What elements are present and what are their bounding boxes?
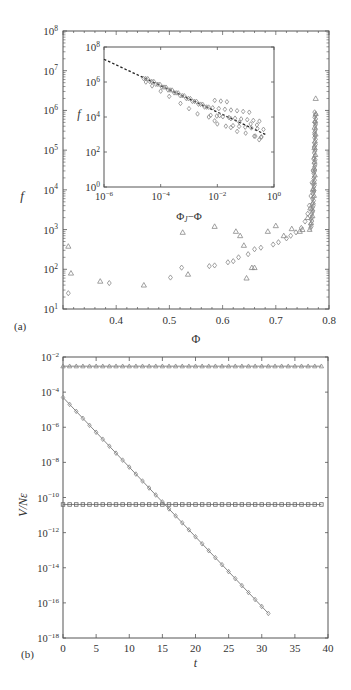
panel-a-label: (a) [14,320,27,333]
triangle-point [313,96,318,101]
diamond-point [259,245,263,250]
y-tick-label: 10−18 [37,632,59,644]
y-tick-label: 102 [43,262,58,275]
y-tick-label: 107 [43,63,58,76]
inset-x-axis-label: ΦJ−Φ [176,210,202,224]
y-tick-label: 10−8 [41,456,60,468]
y-tick-label: 108 [43,24,58,37]
figure-canvas: 1011021031041051061071080.40.50.60.70.8Φ… [0,0,351,690]
triangle-point [238,233,243,238]
triangle-point [66,244,71,249]
y-tick-label: 105 [43,143,58,156]
x-tick-label: 10 [124,642,136,654]
inset-x-tick-label: 10−2 [208,190,227,202]
diamond-point [284,236,288,241]
triangle-point [98,279,103,284]
x-axis-label: Φ [192,332,201,346]
y-tick-label: 104 [43,182,58,195]
inset-y-tick-label: 106 [85,75,100,88]
diamond-point [277,240,281,245]
triangle-point [281,233,286,238]
inset-y-tick-label: 108 [85,40,100,53]
x-tick-label: 30 [256,642,268,654]
x-tick-label: 0.7 [269,314,283,326]
panel-b-y-axis: 10−1810−1610−1410−1210−1010−810−610−410−… [37,351,328,644]
y-axis-label: f [20,188,26,203]
series-square [61,503,323,507]
x-tick-label: 20 [190,642,202,654]
triangle-point [289,226,294,231]
diamond-point [226,260,230,265]
figure: 1011021031041051061071080.40.50.60.70.8Φ… [0,0,351,690]
x-tick-label: 25 [223,642,235,654]
diamond-point [180,265,184,270]
y-tick-label: 106 [43,103,58,116]
inset-y-tick-label: 102 [85,145,100,158]
x-tick-label: 0.4 [109,314,123,326]
panel-b-chart: 10−1810−1610−1410−1210−1010−810−610−410−… [16,351,334,670]
diamond-point [231,259,235,264]
x-tick-label: 40 [323,642,335,654]
x-tick-label: 0.6 [216,314,230,326]
y-tick-label: 10−4 [41,386,60,398]
diamond-point [237,255,241,260]
y-tick-label: 10−16 [37,597,59,609]
triangle-point [185,272,190,277]
inset-x-tick-label: 10−4 [152,190,171,202]
series-diamond [61,395,270,616]
inset-y-tick-label: 104 [85,110,100,123]
triangle-point [273,223,278,228]
triangle-point [244,275,249,280]
x-tick-label: 0.8 [322,314,336,326]
x-tick-label: 15 [157,642,169,654]
diamond-point [246,252,250,257]
y-tick-label: 10−10 [37,491,59,503]
inset-x-tick-label: 10−6 [95,190,114,202]
y-tick-label: 103 [43,222,58,235]
inset-background [104,47,274,187]
diamond-point [107,280,111,285]
y-tick-label: 10−14 [37,562,59,574]
x-tick-label: 35 [289,642,301,654]
diamond-point [289,233,293,238]
inset-chart: 10010210410610810−610−410−2100ΦJ−Φf [77,40,281,224]
triangle-point [68,271,73,276]
y-axis-label: V/Nε [16,493,30,517]
diamond-point [271,242,275,247]
diamond-point [207,264,211,269]
triangle-point [180,230,185,235]
y-tick-label: 101 [43,302,58,315]
x-tick-label: 0 [60,642,66,654]
diamond-point [66,291,70,296]
panel-b-axes-frame [63,357,328,638]
inset-x-tick-label: 100 [267,190,282,202]
triangle-point [265,229,270,234]
panel-b-label: (b) [21,648,34,661]
triangle-point [233,229,238,234]
triangle-point [141,282,146,287]
triangle-point [241,243,246,248]
x-tick-label: 5 [93,642,99,654]
diamond-point [253,247,257,252]
diamond-point [213,263,217,268]
series-line [63,397,268,613]
triangle-point [212,224,217,229]
x-axis-label: t [194,656,198,670]
y-tick-label: 10−12 [37,526,59,538]
y-tick-label: 10−2 [41,351,60,363]
x-tick-label: 0.5 [163,314,177,326]
y-tick-label: 10−6 [41,421,60,433]
diamond-point [169,275,173,280]
series-triangle [61,364,324,368]
panel-a-chart: 1011021031041051061071080.40.50.60.70.8Φ… [14,24,336,346]
inset-y-axis-label: f [77,107,82,121]
